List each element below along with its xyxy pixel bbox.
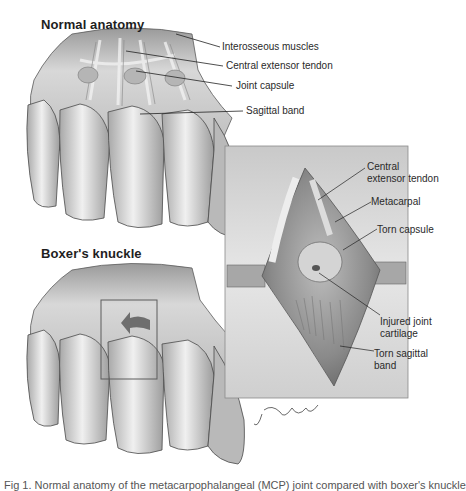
label-torn-capsule: Torn capsule: [377, 224, 434, 236]
label-sagittal-band: Sagittal band: [246, 105, 304, 117]
artist-signature: [254, 405, 318, 425]
normal-fist: [27, 28, 245, 238]
label-injured-joint-cartilage: Injured joint cartilage: [380, 316, 432, 340]
normal-anatomy-heading: Normal anatomy: [41, 17, 144, 32]
boxer-fist: [27, 263, 245, 464]
label-joint-capsule: Joint capsule: [236, 80, 294, 92]
label-metacarpal: Metacarpal: [371, 196, 420, 208]
figure-caption: Fig 1. Normal anatomy of the metacarpoph…: [4, 479, 466, 491]
label-interosseous-muscles: Interosseous muscles: [222, 41, 319, 53]
label-central-extensor-tendon: Central extensor tendon: [226, 60, 333, 72]
boxers-knuckle-heading: Boxer's knuckle: [41, 246, 142, 261]
label-torn-sagittal-band: Torn sagittal band: [374, 348, 428, 372]
label-inset-central-extensor-tendon: Central extensor tendon: [367, 161, 439, 185]
